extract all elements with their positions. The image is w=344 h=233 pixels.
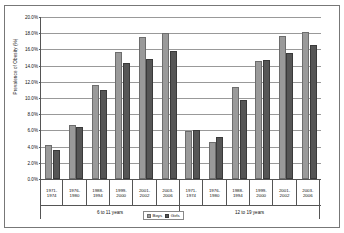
y-tick-label: 6.0% — [28, 128, 38, 133]
category-label: 2003-2006 — [297, 180, 320, 206]
group-axis-label: 6 to 11 years — [97, 210, 123, 215]
bar-girls-1976-1980 — [76, 127, 83, 179]
category-label-line: 2002 — [280, 193, 290, 199]
obesity-prevalence-bar-chart: Prevalence of Obesity (%) 0.0%2.0%4.0%6.… — [0, 0, 344, 233]
bar-boys-1988-1994 — [232, 87, 239, 179]
bar-girls-2003-2006 — [170, 51, 177, 179]
legend-label: Girls — [171, 213, 180, 218]
bar-boys-2003-2006 — [302, 32, 309, 179]
bar-girls-1999-2000 — [123, 63, 130, 179]
y-tick-label: 8.0% — [28, 112, 38, 117]
legend-item-boys[interactable]: Boys — [147, 213, 162, 218]
y-tick-label: 14.0% — [25, 63, 38, 68]
bar-girls-2003-2006 — [310, 45, 317, 179]
category-label-line: 1974 — [186, 193, 196, 199]
bar-girls-1971-1974 — [193, 130, 200, 179]
y-tick-label: 20.0% — [25, 15, 38, 20]
y-tick-label: 2.0% — [28, 160, 38, 165]
legend-swatch-icon — [165, 214, 169, 218]
bar-boys-2003-2006 — [162, 33, 169, 179]
category-label: 1976-1980 — [63, 180, 86, 206]
y-tick-label: 16.0% — [25, 47, 38, 52]
category-axis: 1971-19741976-19801988-19941999-20002001… — [40, 180, 321, 206]
category-label-line: 1980 — [70, 193, 80, 199]
y-tick-label: 18.0% — [25, 31, 38, 36]
category-label: 2001-2002 — [133, 180, 156, 206]
bar-boys-2001-2002 — [279, 36, 286, 179]
legend-item-girls[interactable]: Girls — [165, 213, 180, 218]
bar-boys-1976-1980 — [209, 142, 216, 179]
group-axis-cell: 12 to 19 years — [180, 206, 320, 219]
category-label-line: 2006 — [163, 193, 173, 199]
bar-girls-2001-2002 — [286, 53, 293, 179]
y-tick-label: 4.0% — [28, 144, 38, 149]
category-label-line: 2002 — [140, 193, 150, 199]
bar-boys-1999-2000 — [255, 61, 262, 179]
category-label-line: 2000 — [116, 193, 126, 199]
category-label-line: 2006 — [303, 193, 313, 199]
bar-boys-2001-2002 — [139, 37, 146, 179]
bar-girls-2001-2002 — [146, 59, 153, 179]
bar-boys-1971-1974 — [185, 131, 192, 179]
category-label: 2001-2002 — [273, 180, 296, 206]
bar-girls-1976-1980 — [216, 137, 223, 179]
category-label: 1976-1980 — [203, 180, 226, 206]
chart-legend: BoysGirls — [143, 211, 184, 220]
category-label: 1971-1974 — [180, 180, 203, 206]
category-label-line: 1974 — [47, 193, 57, 199]
y-axis-title: Prevalence of Obesity (%) — [13, 12, 18, 122]
category-label: 1999-2000 — [110, 180, 133, 206]
category-label-line: 1994 — [93, 193, 103, 199]
category-label-line: 2000 — [256, 193, 266, 199]
group-axis-label: 12 to 19 years — [235, 210, 264, 215]
y-tick-label: 0.0% — [28, 177, 38, 182]
y-tick-label: 10.0% — [25, 96, 38, 101]
bar-boys-1976-1980 — [69, 125, 76, 179]
category-label: 2003-2006 — [157, 180, 180, 206]
bar-boys-1971-1974 — [45, 145, 52, 179]
category-label: 1988-1994 — [87, 180, 110, 206]
category-label: 1999-2000 — [250, 180, 273, 206]
bar-girls-1999-2000 — [263, 60, 270, 179]
bar-boys-1999-2000 — [115, 52, 122, 179]
plot-area: 0.0%2.0%4.0%6.0%8.0%10.0%12.0%14.0%16.0%… — [40, 17, 321, 180]
bar-girls-1988-1994 — [100, 90, 107, 179]
category-label: 1988-1994 — [227, 180, 250, 206]
bar-boys-1988-1994 — [92, 85, 99, 179]
legend-label: Boys — [153, 213, 163, 218]
bars-layer — [41, 17, 321, 179]
bar-girls-1988-1994 — [240, 100, 247, 179]
y-tick-label: 12.0% — [25, 79, 38, 84]
bar-girls-1971-1974 — [53, 150, 60, 179]
category-label-line: 1980 — [210, 193, 220, 199]
category-label: 1971-1974 — [40, 180, 63, 206]
category-label-line: 1994 — [233, 193, 243, 199]
legend-swatch-icon — [147, 214, 151, 218]
